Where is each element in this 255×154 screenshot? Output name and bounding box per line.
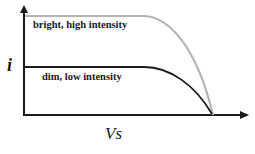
x-axis-label: Vs (105, 124, 122, 144)
bright-curve (25, 16, 213, 115)
iv-curve-diagram: bright, high intensity dim, low intensit… (0, 0, 255, 154)
y-axis-arrow-icon (20, 5, 28, 13)
dim-curve-label: dim, low intensity (42, 71, 122, 82)
x-axis-arrow-icon (240, 111, 249, 119)
y-axis-label: i (7, 55, 12, 76)
bright-curve-label: bright, high intensity (33, 19, 127, 30)
